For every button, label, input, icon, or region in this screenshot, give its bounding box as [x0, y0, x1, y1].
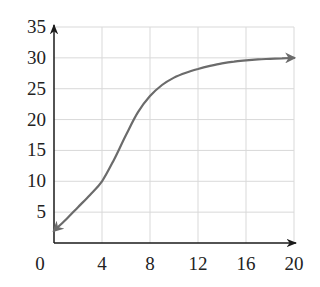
tick-labels: 0481216205101520253035: [27, 16, 304, 274]
data-series: [54, 58, 294, 231]
x-tick-label: 20: [285, 253, 304, 274]
y-tick-label: 35: [27, 16, 46, 37]
y-tick-label: 5: [37, 201, 47, 222]
logistic-curve-chart: 0481216205101520253035: [0, 0, 320, 287]
y-tick-label: 25: [27, 78, 46, 99]
y-tick-label: 20: [27, 109, 46, 130]
y-tick-label: 30: [27, 47, 46, 68]
curve-line: [54, 58, 294, 231]
y-tick-label: 10: [27, 170, 46, 191]
x-tick-label: 0: [35, 253, 45, 274]
x-tick-label: 4: [97, 253, 107, 274]
y-tick-label: 15: [27, 139, 46, 160]
x-tick-label: 12: [189, 253, 208, 274]
x-tick-label: 8: [145, 253, 155, 274]
x-tick-label: 16: [237, 253, 256, 274]
